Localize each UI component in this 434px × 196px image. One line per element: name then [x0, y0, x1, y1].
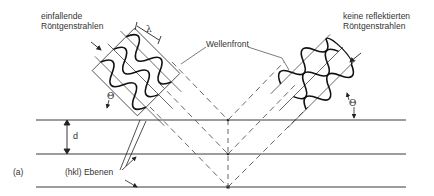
theta-left-symbol: Θ	[107, 91, 114, 101]
d-spacing-arrow	[64, 120, 70, 154]
reflected-rays	[228, 62, 308, 187]
planes-label: (hkl) Ebenen	[65, 167, 113, 177]
theta-right-symbol: Θ	[349, 98, 356, 108]
wavefront-leaders	[181, 47, 289, 70]
reflected-label: keine reflektierten Röntgenstrahlen	[343, 11, 410, 31]
theta-left-arrow	[107, 100, 109, 108]
reflected-wave-packet	[256, 28, 362, 134]
incident-rays	[150, 62, 228, 187]
incident-pointer	[91, 42, 101, 50]
incident-label: einfallende Röntgenstrahlen	[41, 11, 103, 31]
d-spacing-label: d	[73, 131, 78, 141]
incident-wave-packet	[87, 23, 199, 135]
panel-label: (a)	[13, 167, 23, 177]
wavelength-symbol: λ	[146, 24, 152, 34]
reflected-pointer	[350, 53, 361, 62]
wavefront-label: Wellenfront	[206, 39, 249, 49]
